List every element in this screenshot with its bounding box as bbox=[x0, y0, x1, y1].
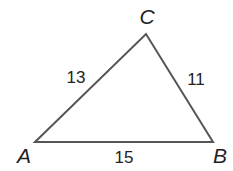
vertex-label-b: B bbox=[213, 144, 227, 167]
side-length-ab: 15 bbox=[115, 148, 134, 167]
side-length-ac: 13 bbox=[67, 68, 86, 87]
side-length-cb: 11 bbox=[187, 70, 205, 89]
vertex-label-c: C bbox=[139, 5, 155, 28]
vertex-label-a: A bbox=[15, 144, 31, 167]
triangle-diagram: A B C 13 11 15 bbox=[0, 0, 233, 171]
